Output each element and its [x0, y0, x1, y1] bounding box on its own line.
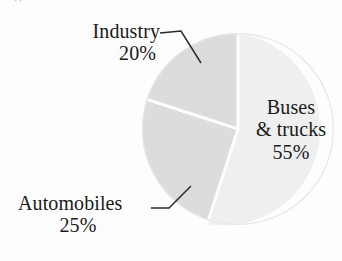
pie-label-industry: Industry 20%: [60, 20, 160, 65]
pie-label-industry-percent: 20%: [60, 42, 156, 64]
pie-label-buses-line1: Buses: [248, 96, 334, 118]
pie-chart-figure: p Industry 20% Automobiles 25% Buses & t…: [0, 0, 342, 261]
pie-label-buses-and-trucks: Buses & trucks 55%: [248, 96, 334, 163]
pie-label-automobiles-percent: 25%: [18, 214, 138, 236]
pie-label-buses-line2: & trucks: [248, 118, 334, 140]
pie-label-industry-name: Industry: [60, 20, 160, 42]
pie-label-buses-percent: 55%: [248, 141, 334, 163]
pie-label-automobiles: Automobiles 25%: [18, 192, 154, 237]
pie-label-automobiles-name: Automobiles: [18, 192, 154, 214]
